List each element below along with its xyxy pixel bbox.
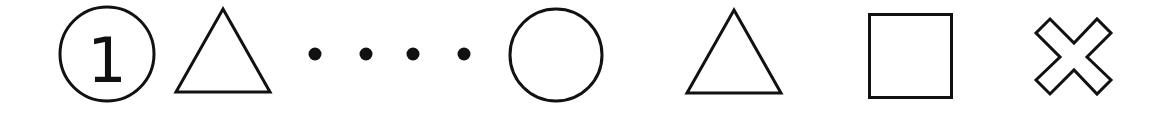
cross-icon [1036, 19, 1111, 94]
circle-icon [510, 9, 602, 101]
dot-icon [360, 48, 373, 61]
dot-icon [458, 48, 471, 61]
square-icon [870, 15, 952, 98]
shape-sequence: 1 [0, 0, 1165, 113]
dot-icon [309, 48, 322, 61]
circled-number-1: 1 [60, 7, 154, 101]
dot-icon [407, 48, 420, 61]
ellipsis-dots [309, 48, 471, 61]
triangle-icon [687, 10, 781, 93]
number-label: 1 [87, 24, 126, 97]
triangle-icon [176, 9, 270, 92]
